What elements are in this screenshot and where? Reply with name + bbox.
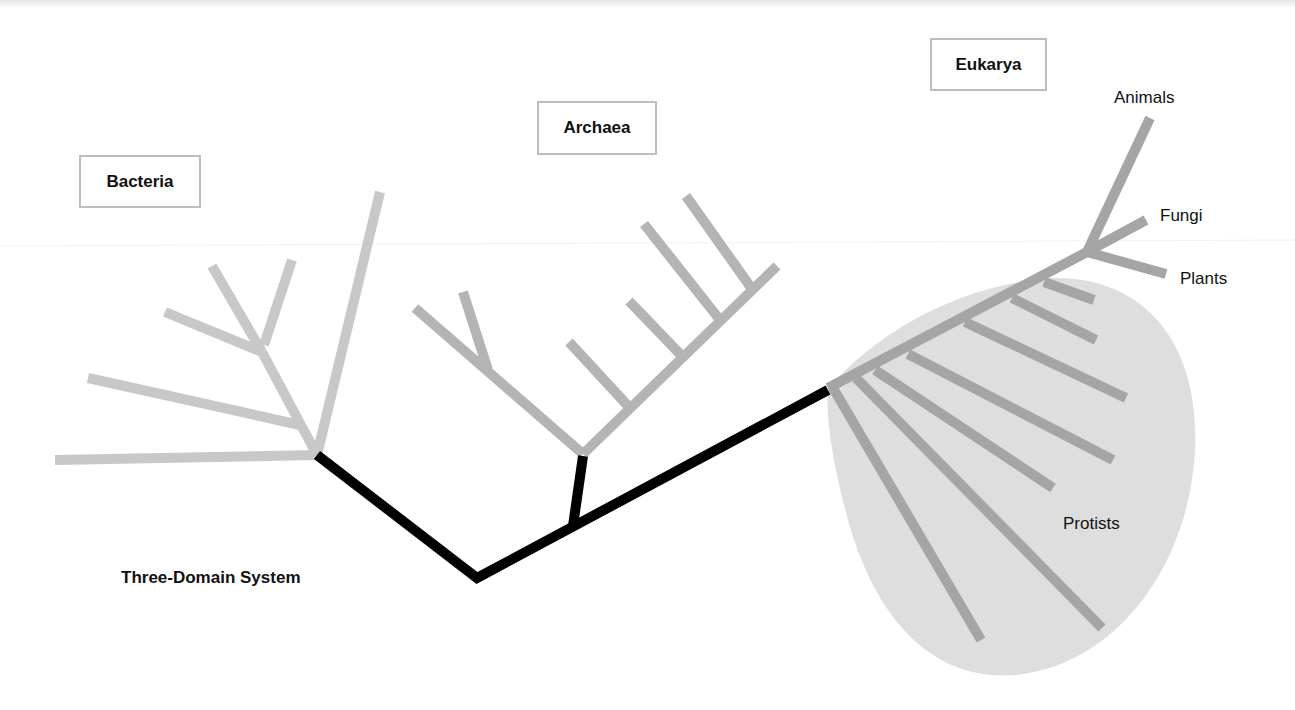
- animals-label: Animals: [1114, 88, 1174, 108]
- fungi-label: Fungi: [1160, 206, 1203, 226]
- bacteria-domain-label: Bacteria: [79, 155, 201, 208]
- eukarya-domain-label: Eukarya: [930, 38, 1047, 91]
- archaea-domain-label: Archaea: [537, 101, 657, 155]
- phylogenetic-tree-diagram: Bacteria Archaea Eukarya Animals Fungi P…: [0, 0, 1295, 710]
- eukarya-label-text: Eukarya: [955, 55, 1021, 75]
- bacteria-branches: [55, 192, 380, 460]
- root-trunk: [317, 390, 828, 578]
- archaea-label-text: Archaea: [563, 118, 630, 138]
- bacteria-label-text: Bacteria: [106, 172, 173, 192]
- diagram-title: Three-Domain System: [121, 568, 301, 588]
- protists-label: Protists: [1063, 514, 1120, 534]
- plants-label: Plants: [1180, 269, 1227, 289]
- archaea-branches: [415, 196, 777, 454]
